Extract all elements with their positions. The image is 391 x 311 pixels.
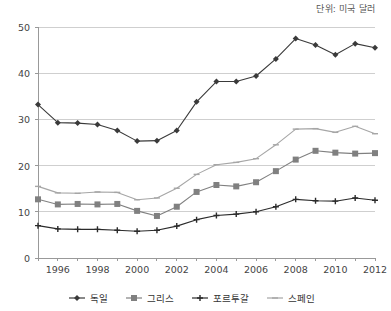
data-point xyxy=(74,295,80,301)
data-point xyxy=(313,42,319,48)
data-point xyxy=(352,195,358,201)
data-point xyxy=(293,196,299,202)
data-point xyxy=(55,201,61,207)
legend-label: 포르투갈 xyxy=(213,291,249,305)
data-point xyxy=(35,223,41,229)
chart-legend: 독일그리스포르투갈스페인 xyxy=(0,291,383,305)
data-point xyxy=(213,182,219,188)
data-point xyxy=(94,121,100,127)
series-독일 xyxy=(35,36,378,145)
data-point xyxy=(154,213,160,219)
x-tick-label: 1996 xyxy=(38,264,78,275)
y-tick-label: 0 xyxy=(6,253,30,264)
data-point xyxy=(35,196,41,202)
data-point xyxy=(273,168,279,174)
series-line xyxy=(38,151,375,216)
data-point xyxy=(253,209,259,215)
legend-label: 그리스 xyxy=(147,291,174,305)
data-point xyxy=(313,198,319,204)
data-point xyxy=(372,150,378,156)
y-tick-label: 50 xyxy=(6,22,30,33)
data-point xyxy=(134,228,140,234)
data-point xyxy=(114,201,120,207)
unit-note: 단위: 미국 달러 xyxy=(316,2,375,15)
data-point xyxy=(194,217,200,223)
data-point xyxy=(114,127,120,133)
y-tick-label: 20 xyxy=(6,160,30,171)
data-point xyxy=(174,223,180,229)
y-tick-label: 10 xyxy=(6,206,30,217)
data-point xyxy=(114,227,120,233)
data-point xyxy=(253,179,259,185)
series-그리스 xyxy=(35,148,378,219)
x-tick-label: 2012 xyxy=(355,264,391,275)
data-point xyxy=(75,201,81,207)
legend-marker-dash-icon xyxy=(266,293,284,303)
data-point xyxy=(94,226,100,232)
data-point xyxy=(233,183,239,189)
y-tick-label: 40 xyxy=(6,68,30,79)
y-tick-label: 30 xyxy=(6,114,30,125)
data-point xyxy=(372,197,378,203)
legend-item-그리스[interactable]: 그리스 xyxy=(125,291,174,305)
data-point xyxy=(332,150,338,156)
legend-marker-diamond-icon xyxy=(68,293,86,303)
data-point xyxy=(174,204,180,210)
data-point xyxy=(372,45,378,51)
data-point xyxy=(352,151,358,157)
data-point xyxy=(332,52,338,58)
x-tick-label: 2000 xyxy=(117,264,157,275)
legend-marker-cross-icon xyxy=(191,293,209,303)
data-point xyxy=(293,157,299,163)
x-tick-label: 2004 xyxy=(196,264,236,275)
x-tick-label: 2010 xyxy=(315,264,355,275)
data-point xyxy=(154,227,160,233)
data-point xyxy=(75,226,81,232)
data-point xyxy=(131,295,137,301)
data-point xyxy=(134,208,140,214)
x-tick-label: 2002 xyxy=(157,264,197,275)
data-point xyxy=(332,198,338,204)
x-tick-label: 2008 xyxy=(276,264,316,275)
series-line xyxy=(38,198,375,231)
data-point xyxy=(313,148,319,154)
legend-label: 독일 xyxy=(90,291,108,305)
data-point xyxy=(55,226,61,232)
legend-item-독일[interactable]: 독일 xyxy=(68,291,108,305)
data-point xyxy=(194,189,200,195)
series-포르투갈 xyxy=(35,195,378,234)
data-point xyxy=(352,41,358,47)
data-point xyxy=(75,120,81,126)
series-line xyxy=(38,39,375,142)
legend-marker-square-icon xyxy=(125,293,143,303)
data-point xyxy=(94,201,100,207)
data-point xyxy=(273,204,279,210)
legend-label: 스페인 xyxy=(288,291,315,305)
x-tick-label: 1998 xyxy=(77,264,117,275)
data-point xyxy=(213,212,219,218)
legend-item-포르투갈[interactable]: 포르투갈 xyxy=(191,291,249,305)
legend-item-스페인[interactable]: 스페인 xyxy=(266,291,315,305)
x-tick-label: 2006 xyxy=(236,264,276,275)
data-point xyxy=(134,138,140,144)
data-point xyxy=(233,79,239,85)
data-point xyxy=(197,295,203,301)
data-point xyxy=(154,138,160,144)
